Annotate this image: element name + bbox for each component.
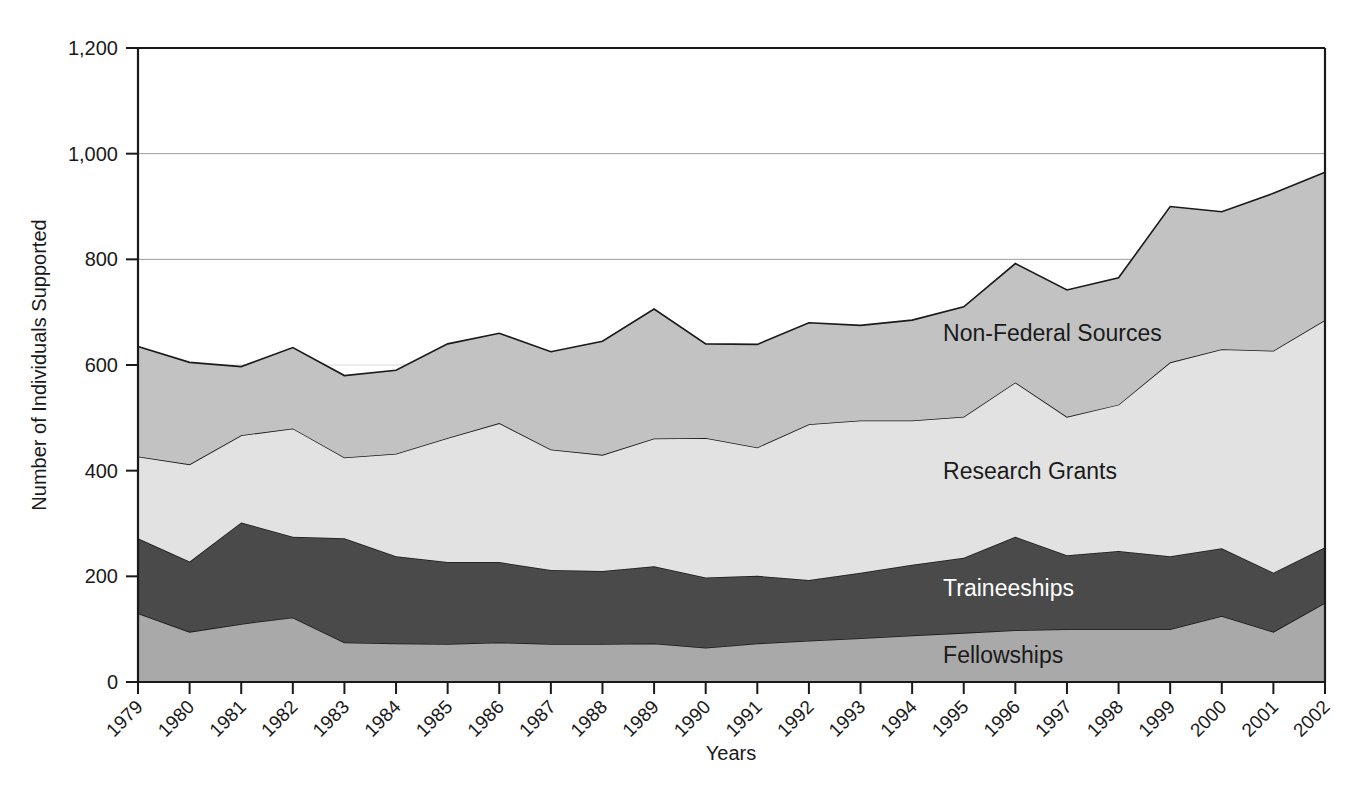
x-tick-label-1986: 1986 — [463, 696, 508, 741]
x-tick-label-1999: 1999 — [1134, 696, 1179, 741]
chart-canvas: 02004006008001,0001,200 1979198019811982… — [0, 0, 1345, 791]
x-tick-label-1982: 1982 — [257, 696, 302, 741]
x-tick-label-1992: 1992 — [773, 696, 818, 741]
x-tick-label-1981: 1981 — [205, 696, 250, 741]
y-tick-label-800: 800 — [85, 248, 118, 270]
x-tick-label-1985: 1985 — [412, 696, 457, 741]
x-tick-label-1983: 1983 — [309, 696, 354, 741]
x-tick-label-1988: 1988 — [567, 696, 612, 741]
x-tick-label-1997: 1997 — [1031, 696, 1076, 741]
x-axis-tick-labels: 1979198019811982198319841985198619871988… — [102, 696, 1334, 741]
x-tick-label-2001: 2001 — [1237, 696, 1282, 741]
y-tick-label-1200: 1,200 — [68, 37, 118, 59]
x-tick-label-1998: 1998 — [1083, 696, 1128, 741]
x-tick-label-1984: 1984 — [360, 696, 405, 741]
y-tick-label-0: 0 — [107, 671, 118, 693]
y-tick-label-200: 200 — [85, 565, 118, 587]
stacked-area-chart: 02004006008001,0001,200 1979198019811982… — [0, 0, 1345, 791]
y-tick-label-1000: 1,000 — [68, 143, 118, 165]
y-tick-label-600: 600 — [85, 354, 118, 376]
x-tick-label-1979: 1979 — [102, 696, 147, 741]
x-tick-label-1987: 1987 — [515, 696, 560, 741]
x-axis-ticks — [138, 682, 1325, 694]
y-axis-ticks — [126, 48, 138, 682]
x-tick-label-1980: 1980 — [154, 696, 199, 741]
x-tick-label-1994: 1994 — [876, 696, 921, 741]
series-label-non-federal-sources: Non-Federal Sources — [943, 320, 1162, 346]
x-tick-label-1990: 1990 — [670, 696, 715, 741]
x-tick-label-1989: 1989 — [618, 696, 663, 741]
series-label-research-grants: Research Grants — [943, 458, 1117, 484]
x-tick-label-2000: 2000 — [1186, 696, 1231, 741]
x-tick-label-1993: 1993 — [825, 696, 870, 741]
x-tick-label-1991: 1991 — [721, 696, 766, 741]
series-label-traineeships: Traineeships — [943, 575, 1074, 601]
x-tick-label-1995: 1995 — [928, 696, 973, 741]
y-tick-label-400: 400 — [85, 460, 118, 482]
x-axis-title: Years — [706, 742, 756, 764]
y-axis-tick-labels: 02004006008001,0001,200 — [68, 37, 118, 693]
y-axis-title: Number of Individuals Supported — [28, 219, 50, 510]
x-tick-label-1996: 1996 — [979, 696, 1024, 741]
x-tick-label-2002: 2002 — [1289, 696, 1334, 741]
series-label-fellowships: Fellowships — [943, 642, 1063, 668]
